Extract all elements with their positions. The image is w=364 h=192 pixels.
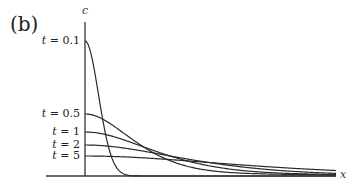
series-label-0: t = 0.1 — [20, 34, 80, 47]
x-axis-label: x — [340, 168, 346, 181]
c-axis-label: c — [82, 4, 88, 17]
curve-0 — [85, 41, 336, 176]
curves — [85, 41, 336, 176]
series-label-4: t = 5 — [20, 149, 80, 162]
diffusion-plot — [0, 0, 364, 192]
series-label-1: t = 0.5 — [20, 107, 80, 120]
series-label-2: t = 1 — [20, 125, 80, 138]
